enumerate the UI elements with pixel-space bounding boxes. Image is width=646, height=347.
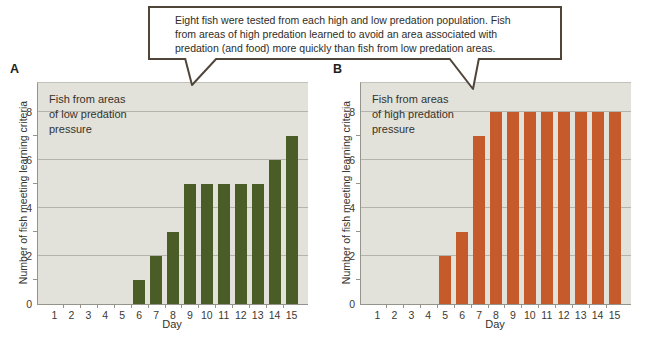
y-minor-tick [33, 135, 37, 136]
bar-day-7 [150, 256, 162, 304]
bar-day-11 [541, 112, 553, 304]
bar-day-5 [439, 256, 451, 304]
x-tick [504, 304, 505, 308]
plot-annotation-a: Fish from areas of low predation pressur… [49, 92, 127, 137]
panel-b: B Number of fish meeting learning criter… [323, 60, 646, 347]
x-tick [403, 304, 404, 308]
panel-a-label: A [10, 62, 19, 76]
callout-box: Eight fish were tested from each high an… [148, 6, 562, 60]
callout-text-line: Eight fish were tested from each high an… [175, 14, 540, 28]
x-tick [606, 304, 607, 308]
bar-day-14 [269, 160, 281, 304]
callout-tail-right [445, 58, 483, 92]
x-tick [165, 304, 166, 308]
callout-text-line: predation (and food) more quickly than f… [175, 42, 540, 56]
y-minor-tick [33, 231, 37, 232]
y-minor-tick [356, 135, 360, 136]
y-minor-tick [33, 279, 37, 280]
x-tick [538, 304, 539, 308]
x-tick [215, 304, 216, 308]
x-tick [63, 304, 64, 308]
plot-area-b: Fish from areas of high predation pressu… [360, 82, 631, 305]
x-tick [589, 304, 590, 308]
x-tick [572, 304, 573, 308]
bar-day-12 [235, 184, 247, 304]
panel-b-label: B [333, 62, 342, 76]
gridline-y4 [38, 207, 308, 208]
bar-day-9 [184, 184, 196, 304]
x-tick [266, 304, 267, 308]
bar-day-13 [252, 184, 264, 304]
bar-day-10 [524, 112, 536, 304]
plot-area-a: Fish from areas of low predation pressur… [37, 82, 308, 305]
x-tick [232, 304, 233, 308]
bar-day-8 [167, 232, 179, 304]
y-tick-label: 4 [333, 202, 355, 214]
x-tick [181, 304, 182, 308]
y-minor-tick [356, 279, 360, 280]
x-axis-title: Day [360, 318, 630, 330]
x-tick [114, 304, 115, 308]
x-tick [488, 304, 489, 308]
panel-a: A Number of fish meeting learning criter… [0, 60, 323, 347]
y-tick-label: 0 [10, 298, 32, 310]
bar-day-15 [286, 136, 298, 304]
bar-day-7 [473, 136, 485, 304]
x-tick [131, 304, 132, 308]
y-minor-tick [33, 183, 37, 184]
bar-day-13 [575, 112, 587, 304]
x-tick [386, 304, 387, 308]
x-tick [555, 304, 556, 308]
x-tick [521, 304, 522, 308]
bar-day-8 [490, 112, 502, 304]
y-tick-label: 6 [10, 154, 32, 166]
x-tick [454, 304, 455, 308]
y-tick-label: 6 [333, 154, 355, 166]
figure-fish-learning: Eight fish were tested from each high an… [0, 0, 646, 347]
y-tick-label: 2 [10, 250, 32, 262]
y-tick-label: 2 [333, 250, 355, 262]
bar-day-10 [201, 184, 213, 304]
x-tick [148, 304, 149, 308]
bar-day-11 [218, 184, 230, 304]
x-tick [437, 304, 438, 308]
y-tick-label: 8 [10, 106, 32, 118]
x-tick [80, 304, 81, 308]
y-tick-label: 0 [333, 298, 355, 310]
x-tick [420, 304, 421, 308]
y-minor-tick [356, 183, 360, 184]
bar-day-6 [133, 280, 145, 304]
bar-day-9 [507, 112, 519, 304]
gridline-y6 [38, 159, 308, 160]
x-tick [283, 304, 284, 308]
x-tick [249, 304, 250, 308]
x-tick [97, 304, 98, 308]
y-minor-tick [356, 231, 360, 232]
plot-annotation-b: Fish from areas of high predation pressu… [372, 92, 454, 137]
bar-day-14 [592, 112, 604, 304]
y-tick-label: 8 [333, 106, 355, 118]
x-tick [471, 304, 472, 308]
bar-day-12 [558, 112, 570, 304]
x-tick [198, 304, 199, 308]
callout-tail-left [183, 58, 219, 88]
bar-day-6 [456, 232, 468, 304]
y-tick-label: 4 [10, 202, 32, 214]
x-axis-title: Day [37, 318, 307, 330]
bar-day-15 [609, 112, 621, 304]
callout-text-line: from areas of high predation learned to … [175, 28, 540, 42]
